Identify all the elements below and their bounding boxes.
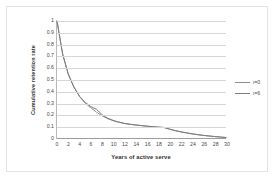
- x-axis-title: Years of active serve: [56, 154, 226, 160]
- legend-item-label: ι=6: [253, 91, 260, 96]
- y-axis-tick-label: 0.2: [47, 113, 54, 118]
- gridline: [57, 92, 226, 93]
- legend-item-label: ι=0: [253, 80, 260, 85]
- chart-legend: ι=0ι=6: [235, 77, 273, 99]
- x-axis-tick-label: 2: [67, 142, 70, 147]
- x-axis-tick-label: 28: [213, 142, 219, 147]
- x-axis-tick-label: 0: [56, 142, 59, 147]
- gridline: [57, 80, 226, 81]
- legend-item[interactable]: ι=6: [235, 88, 273, 99]
- x-axis-tick-label: 20: [167, 142, 173, 147]
- x-axis-tick-label: 26: [201, 142, 207, 147]
- x-axis-tick-label: 6: [90, 142, 93, 147]
- y-axis-tick-label: 0.6: [47, 66, 54, 71]
- legend-line-swatch: [235, 93, 250, 95]
- y-axis-tick-label: 0.8: [47, 42, 54, 47]
- gridline: [57, 45, 226, 46]
- y-axis-tick-label: 0.7: [47, 54, 54, 59]
- y-axis-tick-label: 0.9: [47, 30, 54, 35]
- x-axis-tick-label: 12: [122, 142, 128, 147]
- gridline: [57, 68, 226, 69]
- y-axis-tick-label: 0.4: [47, 89, 54, 94]
- y-axis-tick-label: 0: [51, 136, 54, 141]
- chart-frame: 00.10.20.30.40.50.60.70.80.9102468101214…: [6, 6, 268, 172]
- x-axis-tick-label: 14: [133, 142, 139, 147]
- x-axis-tick-label: 30: [224, 142, 230, 147]
- gridline: [57, 115, 226, 116]
- gridline: [57, 127, 226, 128]
- x-axis-tick-label: 4: [78, 142, 81, 147]
- y-axis-tick-label: 0.3: [47, 101, 54, 106]
- x-axis-tick-label: 18: [156, 142, 162, 147]
- x-axis-tick-label: 8: [101, 142, 104, 147]
- x-axis-tick-label: 10: [111, 142, 117, 147]
- gridline: [57, 21, 226, 22]
- x-axis-tick-label: 16: [145, 142, 151, 147]
- x-axis-line: [57, 138, 226, 139]
- x-axis-tick-label: 24: [190, 142, 196, 147]
- y-axis-title: Cumulative retention rate: [28, 21, 38, 139]
- x-axis-tick-label: 22: [179, 142, 185, 147]
- legend-item[interactable]: ι=0: [235, 77, 273, 88]
- gridline: [57, 56, 226, 57]
- chart-screenshot: 00.10.20.30.40.50.60.70.80.9102468101214…: [0, 0, 276, 182]
- gridline: [57, 33, 226, 34]
- gridline: [57, 104, 226, 105]
- plot-area: 00.10.20.30.40.50.60.70.80.9102468101214…: [56, 21, 226, 139]
- y-axis-tick-label: 0.1: [47, 125, 54, 130]
- y-axis-tick-label: 0.5: [47, 77, 54, 82]
- legend-line-swatch: [235, 82, 250, 84]
- y-axis-tick-label: 1: [51, 18, 54, 23]
- y-axis-title-label: Cumulative retention rate: [30, 45, 36, 115]
